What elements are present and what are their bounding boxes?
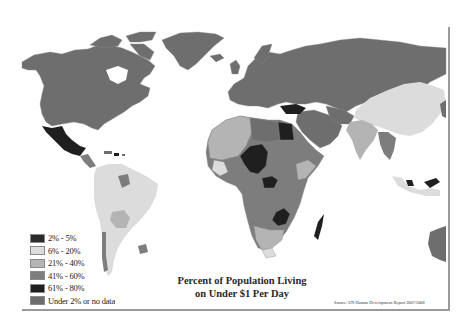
legend-label: 41% - 60% xyxy=(48,271,84,281)
map-figure: 2% - 5% 6% - 20% 21% - 40% 41% - 60% 61%… xyxy=(0,0,470,326)
southeast-asia xyxy=(378,132,396,160)
caribbean xyxy=(104,151,125,156)
legend-swatch xyxy=(30,296,45,305)
legend-item: 6% - 20% xyxy=(30,245,115,257)
map-title-line-2: on Under $1 Per Day xyxy=(172,287,312,300)
frame-bottom-border xyxy=(22,309,450,311)
uruguay xyxy=(138,244,148,254)
legend-item: Under 2% or no data xyxy=(30,295,115,307)
legend-item: 2% - 5% xyxy=(30,232,115,244)
legend-label: 21% - 40% xyxy=(48,258,84,268)
legend-item: 21% - 40% xyxy=(30,257,115,269)
legend: 2% - 5% 6% - 20% 21% - 40% 41% - 60% 61%… xyxy=(30,232,115,308)
legend-label: Under 2% or no data xyxy=(48,296,115,306)
legend-swatch xyxy=(30,246,45,255)
legend-item: 61% - 80% xyxy=(30,282,115,294)
legend-swatch xyxy=(30,259,45,268)
india xyxy=(346,120,378,160)
legend-label: 61% - 80% xyxy=(48,283,84,293)
mexico xyxy=(42,126,86,156)
australia xyxy=(428,226,446,262)
map-title: Percent of Population Living on Under $1… xyxy=(172,274,312,300)
legend-label: 2% - 5% xyxy=(48,233,76,243)
frame-right-border xyxy=(448,27,450,311)
central-america xyxy=(80,154,96,168)
indonesia xyxy=(392,176,440,196)
legend-swatch xyxy=(30,271,45,280)
map-title-line-1: Percent of Population Living xyxy=(172,274,312,287)
africa xyxy=(206,116,324,258)
legend-item: 41% - 60% xyxy=(30,270,115,282)
source-note: Source: UN Human Development Report 2007… xyxy=(334,300,425,305)
legend-swatch xyxy=(30,234,45,243)
legend-label: 6% - 20% xyxy=(48,246,80,256)
madagascar xyxy=(314,214,324,240)
legend-swatch xyxy=(30,284,45,293)
